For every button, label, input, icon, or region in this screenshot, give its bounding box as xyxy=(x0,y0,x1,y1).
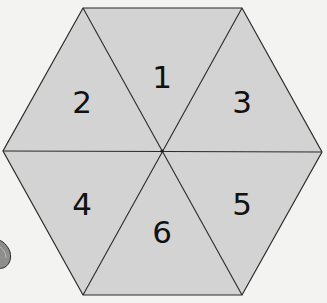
section-label-2: 2 xyxy=(72,84,92,120)
pebble-icon xyxy=(0,240,11,269)
center-pivot xyxy=(160,149,163,152)
section-label-5: 5 xyxy=(232,186,252,222)
section-label-6: 6 xyxy=(152,214,172,250)
hexagon-spinner: 1 2 3 4 5 6 xyxy=(0,0,327,303)
section-label-3: 3 xyxy=(232,84,252,120)
section-label-4: 4 xyxy=(72,186,92,222)
section-label-1: 1 xyxy=(152,59,172,95)
spinner-diagram: 1 2 3 4 5 6 xyxy=(0,0,327,303)
